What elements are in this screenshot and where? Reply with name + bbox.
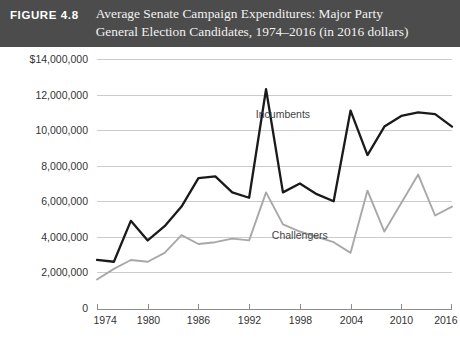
x-axis-group [97,304,452,310]
series-annotations-group: IncumbentsChallengers [256,108,328,241]
series-line-challengers [97,175,452,280]
x-axis-tick-label: 1974 [94,314,118,326]
y-axis-tick-label: 2,000,000 [41,266,88,278]
x-axis-labels-group: 19741980198619921998200420102016 [94,314,458,326]
x-axis-tick-label: 2016 [434,314,458,326]
y-axis-tick-label: 0 [82,302,88,314]
figure-number-label: FIGURE 4.8 [10,5,79,21]
x-axis-tick-label: 1998 [289,314,313,326]
y-axis-tick-label: 8,000,000 [41,160,88,172]
figure-container: FIGURE 4.8 Average Senate Campaign Expen… [0,0,460,348]
figure-header-bar: FIGURE 4.8 Average Senate Campaign Expen… [0,0,460,47]
y-axis-tick-label: 6,000,000 [41,195,88,207]
series-label-incumbents: Incumbents [256,108,310,120]
figure-title: Average Senate Campaign Expenditures: Ma… [96,5,452,40]
x-axis-tick-label: 1980 [137,314,161,326]
y-axis-labels-group: 02,000,0004,000,0006,000,0008,000,00010,… [30,53,89,314]
y-axis-tick-label: $14,000,000 [30,53,89,65]
figure-title-line-2: General Election Candidates, 1974–2016 (… [96,23,452,41]
x-axis-tick-label: 1986 [187,314,211,326]
y-axis-tick-label: 10,000,000 [35,124,88,136]
y-axis-tick-label: 12,000,000 [35,89,88,101]
series-label-challengers: Challengers [272,229,328,241]
x-axis-tick-label: 1992 [238,314,262,326]
x-axis-tick-label: 2010 [390,314,414,326]
y-axis-tick-label: 4,000,000 [41,231,88,243]
chart-plot-area: 02,000,0004,000,0006,000,0008,000,00010,… [0,47,460,348]
line-chart: 02,000,0004,000,0006,000,0008,000,00010,… [0,47,460,348]
x-axis-tick-label: 2004 [340,314,364,326]
figure-title-line-1: Average Senate Campaign Expenditures: Ma… [96,5,452,23]
